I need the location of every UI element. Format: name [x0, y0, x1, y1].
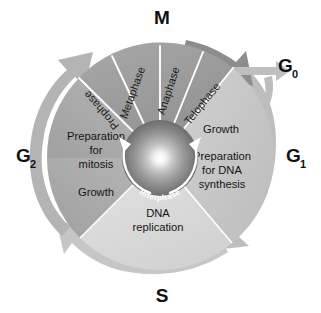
label-g1-sub: 1 [300, 158, 306, 170]
g1-line-1: Growth [203, 123, 239, 135]
g1-line-2: Preparation [193, 150, 251, 162]
g2-line-2: for [89, 144, 102, 156]
g2-line-1: Preparation [67, 130, 125, 142]
label-g0-sub: 0 [292, 68, 298, 80]
g2-line-4: Growth [78, 186, 114, 198]
cell-cycle-svg: Prophase Metaphase Anaphase Telophase Gr… [0, 0, 321, 313]
g2-line-3: mitosis [79, 158, 114, 170]
label-s: S [156, 285, 169, 306]
g1-line-4: synthesis [199, 178, 246, 190]
label-g0-base: G [278, 55, 293, 76]
s-line-2: replication [133, 221, 184, 233]
cell-cycle-diagram: Prophase Metaphase Anaphase Telophase Gr… [0, 0, 321, 313]
interphase-sphere [122, 120, 198, 196]
g1-line-3: for DNA [202, 164, 242, 176]
s-line-1: DNA [146, 207, 170, 219]
label-g2-sub: 2 [30, 158, 36, 170]
label-g1: G 1 [286, 145, 306, 170]
label-g1-base: G [286, 145, 301, 166]
label-m: M [154, 7, 170, 28]
label-g2-base: G [16, 145, 31, 166]
